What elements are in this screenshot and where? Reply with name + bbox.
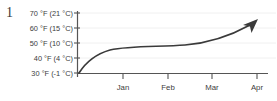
xtick-label-apr: Apr [251,83,264,92]
x-axis-tick-labels: Jan Feb Mar Apr [117,83,264,92]
temperature-line-chart: 70 °F (21 °C) 60 °F (15 °C) 50 °F (10 °C… [0,0,277,101]
xtick-label-feb: Feb [161,83,175,92]
figure-container: 1 70 °F (21 °C) 60 °F (15 °C) 50 °F (10 … [0,0,277,101]
ytick-label-70f: 70 °F (21 °C) [30,9,73,18]
ytick-label-30f: 30 °F (-1 °C) [31,69,73,78]
y-axis-tick-labels: 70 °F (21 °C) 60 °F (15 °C) 50 °F (10 °C… [30,9,73,78]
xtick-label-mar: Mar [205,83,219,92]
xtick-label-jan: Jan [117,83,130,92]
ytick-label-50f: 50 °F (10 °C) [30,39,73,48]
ytick-label-60f: 60 °F (15 °C) [30,24,73,33]
temperature-trend-curve [79,25,250,73]
ytick-label-40f: 40 °F (4 °C) [34,54,73,63]
trend-arrow-head [243,19,258,33]
